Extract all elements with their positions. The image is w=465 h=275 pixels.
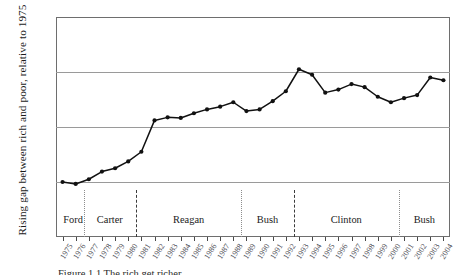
data-point [257, 107, 261, 111]
x-tick-label: 1999 [373, 242, 389, 261]
x-tick-label: 1988 [229, 242, 245, 261]
x-tick-mark [76, 237, 77, 241]
x-tick-mark [63, 237, 64, 241]
data-point [87, 177, 91, 181]
series-line [56, 17, 450, 237]
data-point [152, 118, 156, 122]
x-tick-mark [233, 237, 234, 241]
x-tick-label: 1989 [242, 242, 258, 261]
data-point [310, 73, 314, 77]
x-tick-mark [128, 237, 129, 241]
data-point [166, 115, 170, 119]
x-tick-mark [260, 237, 261, 241]
data-point [415, 93, 419, 97]
data-point [363, 85, 367, 89]
data-point [297, 67, 301, 71]
x-tick-label: 1997 [347, 242, 363, 261]
x-tick-mark [352, 237, 353, 241]
figure-caption: Figure 1.1 The rich get richer [58, 268, 428, 275]
x-tick-mark [155, 237, 156, 241]
series-polyline [63, 69, 444, 184]
x-tick-mark [115, 237, 116, 241]
x-tick-mark [417, 237, 418, 241]
x-tick-mark [325, 237, 326, 241]
x-tick-mark [286, 237, 287, 241]
data-point [192, 111, 196, 115]
x-tick-label: 1979 [110, 242, 126, 261]
x-tick-mark [404, 237, 405, 241]
x-tick-mark [89, 237, 90, 241]
x-tick-mark [194, 237, 195, 241]
data-point [349, 82, 353, 86]
x-tick-label: 1993 [294, 242, 310, 261]
x-tick-label: 1983 [163, 242, 179, 261]
data-point [231, 100, 235, 104]
x-tick-label: 2003 [426, 242, 442, 261]
x-tick-label: 1985 [189, 242, 205, 261]
data-point [244, 109, 248, 113]
data-point [284, 89, 288, 93]
figure-chart: Rising gap between rich and poor, relati… [0, 0, 465, 275]
x-tick-label: 1995 [320, 242, 336, 261]
x-tick-mark [168, 237, 169, 241]
data-point [179, 116, 183, 120]
x-tick-mark [430, 237, 431, 241]
x-tick-label: 2000 [386, 242, 402, 261]
data-point [323, 91, 327, 95]
x-tick-label: 1982 [150, 242, 166, 261]
series-markers [60, 67, 445, 186]
x-tick-mark [181, 237, 182, 241]
x-tick-label: 1975 [58, 242, 74, 261]
data-point [126, 159, 130, 163]
x-tick-label: 1996 [334, 242, 350, 261]
x-tick-label: 1981 [137, 242, 153, 261]
x-tick-label: 1990 [255, 242, 271, 261]
data-point [428, 75, 432, 79]
data-point [441, 78, 445, 82]
x-tick-label: 1986 [202, 242, 218, 261]
x-tick-mark [378, 237, 379, 241]
x-tick-label: 1980 [123, 242, 139, 261]
x-tick-mark [391, 237, 392, 241]
data-point [205, 107, 209, 111]
x-tick-label: 1994 [307, 242, 323, 261]
x-tick-mark [207, 237, 208, 241]
data-point [218, 105, 222, 109]
x-tick-label: 1978 [97, 242, 113, 261]
x-tick-label: 1977 [84, 242, 100, 261]
x-tick-label: 1998 [360, 242, 376, 261]
x-tick-mark [141, 237, 142, 241]
data-point [139, 150, 143, 154]
x-tick-mark [299, 237, 300, 241]
data-point [113, 166, 117, 170]
data-point [389, 100, 393, 104]
x-tick-mark [338, 237, 339, 241]
x-tick-mark [443, 237, 444, 241]
x-tick-mark [312, 237, 313, 241]
y-axis-title: Rising gap between rich and poor, relati… [16, 0, 28, 240]
x-tick-label: 1992 [281, 242, 297, 261]
data-point [402, 96, 406, 100]
x-tick-label: 1976 [71, 242, 87, 261]
plot-area: 0.81.01.21.41.6 197519761977197819791980… [56, 17, 450, 237]
x-tick-mark [365, 237, 366, 241]
data-point [74, 182, 78, 186]
x-tick-mark [102, 237, 103, 241]
x-tick-label: 1987 [215, 242, 231, 261]
x-tick-label: 2002 [412, 242, 428, 261]
x-tick-label: 2004 [439, 242, 455, 261]
data-point [376, 95, 380, 99]
x-tick-mark [246, 237, 247, 241]
x-tick-mark [273, 237, 274, 241]
x-tick-label: 1984 [176, 242, 192, 261]
data-point [271, 99, 275, 103]
data-point [100, 169, 104, 173]
data-point [60, 180, 64, 184]
x-tick-label: 2001 [399, 242, 415, 261]
x-tick-mark [220, 237, 221, 241]
x-tick-label: 1991 [268, 242, 284, 261]
data-point [336, 88, 340, 92]
